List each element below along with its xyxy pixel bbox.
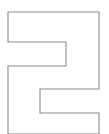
shape-canvas-svg: [0, 0, 109, 134]
drawing-canvas: [0, 0, 109, 134]
zigzag-outline-polygon: [8, 12, 99, 134]
